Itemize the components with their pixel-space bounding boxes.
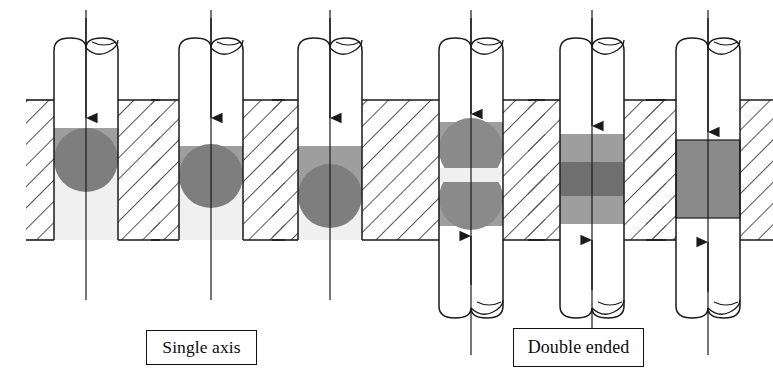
column-double-ended-stage-3 xyxy=(676,10,740,355)
hatched-blocks xyxy=(26,100,773,240)
column-single-axis-stage-1 xyxy=(54,10,118,300)
diagram-canvas: Single axis Double ended xyxy=(0,0,773,392)
label-single-axis: Single axis xyxy=(146,330,257,365)
column-single-axis-stage-2 xyxy=(179,10,243,300)
label-double-ended: Double ended xyxy=(513,328,644,367)
column-single-axis-stage-3 xyxy=(298,10,362,300)
column-double-ended-stage-1 xyxy=(439,10,503,355)
cross-section-svg xyxy=(0,0,773,392)
column-double-ended-stage-2 xyxy=(560,10,624,355)
